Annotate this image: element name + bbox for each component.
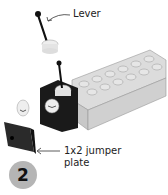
black-brick: [40, 61, 78, 133]
step-number: 2: [17, 165, 29, 185]
round-tile: [17, 100, 29, 116]
lever-piece: [35, 11, 58, 54]
step-number-badge: 2: [9, 161, 37, 189]
grey-brick: [72, 50, 166, 130]
jumper-plate-label-line1: 1x2 jumper: [64, 145, 121, 156]
lever-label: Lever: [73, 8, 101, 19]
jumper-plate-label-line2: plate: [64, 157, 89, 168]
jumper-plate: [4, 122, 36, 154]
